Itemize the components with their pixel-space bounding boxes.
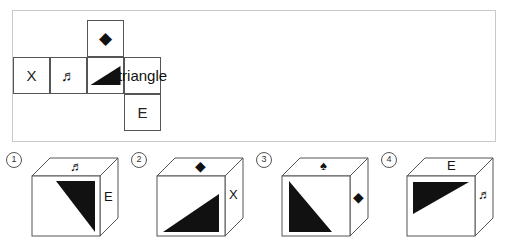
option-2[interactable]: 2 ◆ X [127,150,252,245]
option-3[interactable]: 3 ♠ ◆ [252,150,377,245]
letter-x-label: X [26,68,36,83]
option-1-cube: ♬ E [30,154,122,242]
right-triangle-icon [91,66,121,85]
diamond-icon: ◆ [99,30,112,47]
net-cell-x[interactable]: X [13,57,50,94]
option-2-cube: ◆ X [155,154,247,242]
net-cell-music-note[interactable]: ♬ [50,57,87,94]
option-4[interactable]: 4 E ♬ [377,150,502,245]
music-note-icon: ♬ [61,68,76,83]
option-2-number: 2 [131,152,147,168]
net-cell-diamond[interactable]: ◆ [87,20,124,57]
net-cell-e[interactable]: E [124,94,161,131]
spade-icon: triangle [118,68,167,83]
option-4-cube: E ♬ [405,154,497,242]
net-panel: ◆ X ♬ triangle E [12,10,496,142]
option-4-number: 4 [381,152,397,168]
option-3-cube: ♠ ◆ [280,154,372,242]
option-1[interactable]: 1 ♬ E [2,150,127,245]
option-1-number: 1 [6,152,22,168]
option-3-number: 3 [256,152,272,168]
letter-e-label: E [137,105,147,120]
net-cell-spade[interactable]: triangle [124,57,161,94]
